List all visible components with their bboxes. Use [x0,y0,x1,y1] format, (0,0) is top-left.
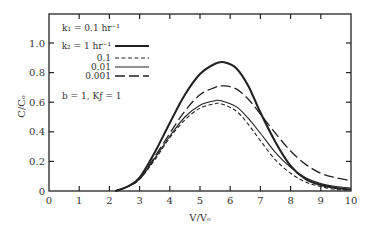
x-tick-label: 6 [227,195,233,206]
x-tick-label: 3 [136,195,142,206]
series-layer [115,62,351,191]
series-line-0.001 [115,86,351,191]
x-tick-label: 9 [318,195,324,206]
x-tick-label: 8 [287,195,293,206]
y-tick-label: 0 [39,186,45,197]
series-line-0.01 [115,100,351,191]
series-line-0.1 [115,103,351,191]
y-tick-label: 0.4 [29,126,45,137]
legend: k₁ = 0.1 hr⁻¹k₂ = 1 hr⁻¹0.10.010.001b = … [62,23,149,101]
legend-label: 0.001 [85,71,111,81]
annotation-parameters: b = 1, Kƒ = 1 [62,91,122,101]
legend-label: k₂ = 1 hr⁻¹ [62,41,111,51]
chart: 01234567891000.20.40.60.81.0V/VₒC/Cₒ k₁ … [0,0,372,232]
y-tick-label: 0.6 [29,97,45,108]
x-tick-label: 7 [257,195,263,206]
x-tick-label: 0 [46,195,52,206]
x-tick-label: 10 [345,195,358,206]
y-tick-label: 1.0 [29,38,45,49]
y-tick-label: 0.2 [29,156,45,167]
x-tick-label: 1 [76,195,82,206]
annotation-k1: k₁ = 0.1 hr⁻¹ [62,23,120,33]
x-axis-title: V/Vₒ [188,212,211,223]
x-tick-label: 5 [197,195,203,206]
x-tick-label: 4 [167,195,173,206]
y-tick-label: 0.8 [29,67,45,78]
x-tick-label: 2 [106,195,112,206]
series-line-1hr [115,62,351,191]
y-axis-title: C/Cₒ [16,95,27,118]
